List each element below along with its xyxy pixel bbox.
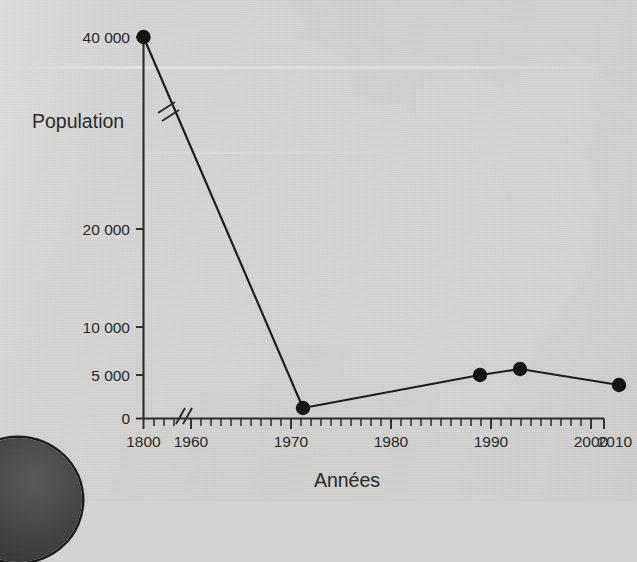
y-tick-label-10000: 10 000	[83, 319, 131, 336]
x-tick-label-2010: 2010	[598, 433, 633, 450]
y-tick-label-5000: 5 000	[91, 367, 130, 384]
data-point-1972	[296, 401, 310, 415]
x-tick-label-1960: 1960	[174, 433, 209, 450]
x-tick-label-1990: 1990	[474, 433, 509, 450]
y-tick-label-0: 0	[121, 410, 130, 427]
data-point-2006	[612, 378, 626, 392]
x-tick-label-1800: 1800	[126, 433, 161, 450]
x-tick-label-1980: 1980	[374, 433, 409, 450]
x-tick-label-1970: 1970	[274, 433, 309, 450]
x-axis-title: Années	[314, 469, 380, 491]
data-point-1800	[136, 30, 150, 44]
data-point-1989	[473, 368, 487, 382]
x-axis-major-ticks	[144, 419, 605, 430]
x-axis-minor-ticks	[154, 419, 581, 427]
y-axis-ticks	[136, 37, 144, 419]
y-axis-title: Population	[32, 110, 124, 132]
x-axis-break-mark	[176, 408, 192, 424]
y-tick-label-40000: 40 000	[83, 29, 131, 46]
data-point-1993	[513, 362, 527, 376]
series-break-mark	[158, 102, 179, 121]
y-tick-label-20000: 20 000	[83, 221, 131, 238]
population-series-line	[144, 37, 620, 408]
